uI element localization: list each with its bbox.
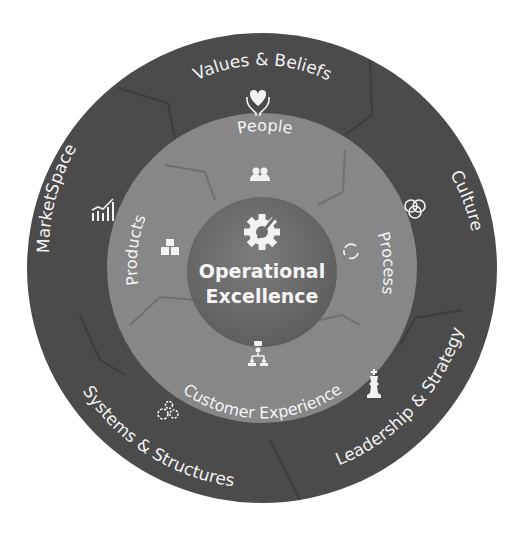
center-title-line1: Operational — [199, 260, 325, 282]
center-title-line2: Excellence — [206, 285, 319, 307]
inner-label-people: People — [236, 116, 295, 138]
operational-excellence-diagram: Operational Excellence Values & Beliefs … — [0, 0, 525, 534]
gear-wrench-icon — [244, 214, 280, 250]
